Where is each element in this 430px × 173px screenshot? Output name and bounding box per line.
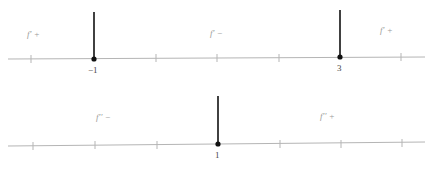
region-label-left-bottom: f′′ − xyxy=(96,112,111,122)
region-label-right-top: f′ + xyxy=(380,25,393,35)
region-label-left-top: f′ + xyxy=(27,29,40,39)
sign-chart-graphics xyxy=(0,0,430,173)
region-label-right-bottom: f′′ + xyxy=(320,111,335,121)
point-label-1: 1 xyxy=(215,150,220,160)
critical-point-3 xyxy=(337,54,342,59)
region-label-middle-top: f′ − xyxy=(210,28,223,38)
bottom-number-line xyxy=(8,96,425,150)
point-label-3: 3 xyxy=(337,63,342,73)
critical-point-neg1 xyxy=(91,56,96,61)
inflection-point-1 xyxy=(215,141,220,146)
point-label-neg1: −1 xyxy=(88,65,98,75)
